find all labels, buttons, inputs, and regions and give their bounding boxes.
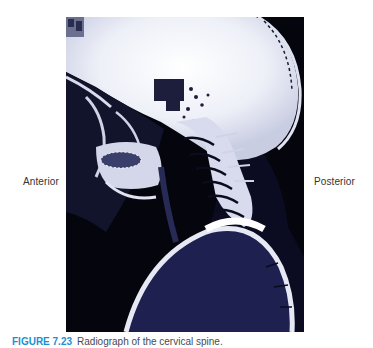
- figure-number: FIGURE 7.23: [12, 336, 72, 347]
- posterior-label: Posterior: [314, 176, 355, 187]
- radiograph-graphic: [66, 17, 304, 332]
- radiograph-image: [66, 17, 304, 332]
- anterior-label: Anterior: [23, 176, 59, 187]
- figure-caption-text: Radiograph of the cervical spine.: [77, 336, 223, 347]
- figure-caption: FIGURE 7.23Radiograph of the cervical sp…: [12, 336, 223, 348]
